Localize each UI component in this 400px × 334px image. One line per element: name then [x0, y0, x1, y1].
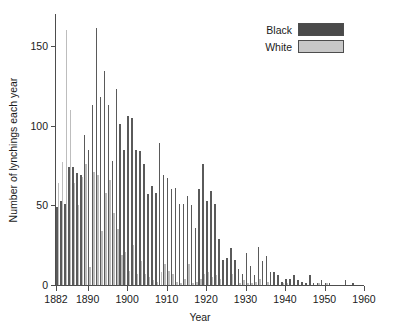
x-tick-label-1940: 1940 [273, 293, 296, 305]
lynchings-bar-chart: Number of lynchings each year 050100150 … [0, 0, 400, 334]
legend-swatch-black [298, 23, 344, 36]
x-tick-mark-1910 [167, 286, 168, 291]
x-axis-title: Year [0, 311, 400, 323]
x-tick-label-1890: 1890 [76, 293, 99, 305]
x-tick-mark-1950 [325, 286, 326, 291]
x-tick-label-1882: 1882 [44, 293, 67, 305]
x-tick-mark-1930 [246, 286, 247, 291]
legend-swatch-white [298, 40, 344, 53]
x-tick-mark-1890 [88, 286, 89, 291]
x-tick-label-1930: 1930 [234, 293, 257, 305]
x-tick-mark-1920 [206, 286, 207, 291]
x-tick-label-1920: 1920 [194, 293, 217, 305]
x-tick-mark-1900 [127, 286, 128, 291]
x-tick-mark-1960 [364, 286, 365, 291]
legend-label-black: Black [266, 24, 292, 36]
legend-label-white: White [265, 41, 292, 53]
legend-item-white[interactable]: White [240, 39, 344, 54]
chart-legend: BlackWhite [240, 22, 344, 56]
x-tick-mark-1940 [285, 286, 286, 291]
x-tick-label-1910: 1910 [155, 293, 178, 305]
x-tick-label-1900: 1900 [115, 293, 138, 305]
x-tick-label-1960: 1960 [352, 293, 375, 305]
x-tick-mark-1882 [56, 286, 57, 291]
x-tick-label-1950: 1950 [313, 293, 336, 305]
legend-item-black[interactable]: Black [240, 22, 344, 37]
